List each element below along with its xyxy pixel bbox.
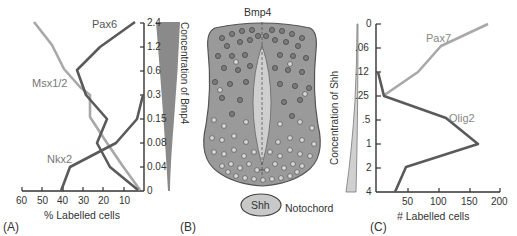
bmp4-gradient-label: Concentration of Bmp4 [179,22,190,124]
c-ytick-1: 1 [366,138,372,149]
a-ytick-0: 0 [147,185,153,196]
panel-b-label: (B) [180,220,196,234]
shh-label: Shh [251,199,270,211]
panel-c-chart [376,24,500,192]
a-ytick-0-08: 0.08 [147,137,166,148]
a-ytick-0-15: 0.15 [147,113,166,124]
a-ytick-0-6: 0.6 [147,65,161,76]
c-xtick-200: 200 [491,196,508,207]
pax7-series-label: Pax7 [426,32,451,44]
c-ytick-2: 2 [366,162,372,173]
a-xtick-30: 30 [78,195,89,206]
c-xlabel: # Labelled cells [397,210,469,222]
c-ytick-06: .06 [355,42,369,53]
c-ytick-5: .5 [362,114,370,125]
c-xtick-50: 50 [402,196,413,207]
panel-c-label: (C) [370,220,387,234]
c-ytick-25: .25 [355,90,369,101]
a-ytick-2-4: 2.4 [147,17,161,28]
a-xtick-50: 50 [37,195,48,206]
panel-a-chart [22,22,144,191]
msx-series-label: Msx1/2 [32,77,67,89]
a-ytick-1-2: 1.2 [147,41,161,52]
neural-tube [204,22,321,216]
c-xtick-100: 100 [430,196,447,207]
c-ytick-4: 4 [366,186,372,197]
a-ytick-0-3: 0.3 [147,89,161,100]
nkx2-series-label: Nkx2 [47,153,72,165]
a-xtick-60: 60 [16,195,27,206]
c-ytick-0: 0 [366,18,372,29]
a-xlabel: % Labelled cells [44,209,120,221]
bmp4-label: Bmp4 [244,6,271,18]
a-xtick-40: 40 [57,195,68,206]
c-xtick-150: 150 [461,196,478,207]
shh-gradient-label: Concentration of Shh [329,45,340,165]
notochord-label: Notochord [285,202,333,214]
pax6-series-label: Pax6 [92,18,117,30]
a-xtick-20: 20 [98,195,109,206]
c-ytick-12: .12 [355,66,369,77]
olig2-series-label: Olig2 [449,112,475,124]
a-xtick-10: 10 [119,195,130,206]
panel-a-label: (A) [3,220,19,234]
a-ytick-0-04: 0.04 [147,161,166,172]
